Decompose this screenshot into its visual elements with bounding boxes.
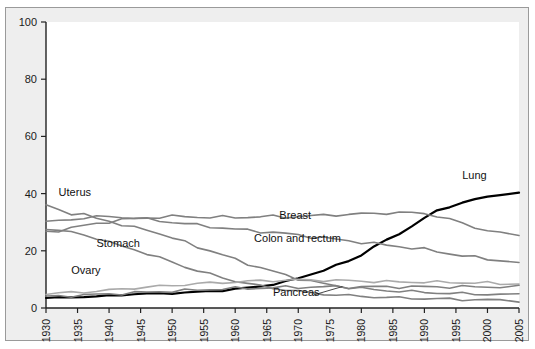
line-chart-canvas: 0204060801001930193519401945195019551960… — [0, 0, 535, 349]
x-tick-label-1935: 1935 — [72, 319, 84, 343]
y-tick-label-20: 20 — [25, 245, 37, 257]
series-label-ovary: Ovary — [71, 264, 101, 276]
series-label-colon-and-rectum: Colon and rectum — [254, 232, 341, 244]
y-tick-label-0: 0 — [31, 302, 37, 314]
series-label-lung: Lung — [462, 169, 486, 181]
series-label-uterus: Uterus — [59, 186, 92, 198]
series-label-pancreas: Pancreas — [273, 286, 320, 298]
x-tick-label-1995: 1995 — [450, 319, 462, 343]
x-tick-label-1985: 1985 — [387, 319, 399, 343]
x-tick-label-1980: 1980 — [355, 319, 367, 343]
y-tick-label-60: 60 — [25, 130, 37, 142]
plot-background — [46, 22, 519, 308]
x-tick-label-1965: 1965 — [261, 319, 273, 343]
x-tick-label-2000: 2000 — [481, 319, 493, 343]
series-label-breast: Breast — [279, 209, 311, 221]
x-tick-label-1975: 1975 — [324, 319, 336, 343]
x-tick-label-1930: 1930 — [40, 319, 52, 343]
y-tick-label-80: 80 — [25, 73, 37, 85]
x-tick-label-1950: 1950 — [166, 319, 178, 343]
chart-figure: Rate per 100,000 02040608010019301935194… — [0, 0, 535, 349]
x-tick-label-1990: 1990 — [418, 319, 430, 343]
x-tick-label-1970: 1970 — [292, 319, 304, 343]
x-tick-label-1955: 1955 — [198, 319, 210, 343]
x-tick-label-2005: 2005 — [513, 319, 525, 343]
series-label-stomach: Stomach — [96, 237, 139, 249]
x-tick-label-1960: 1960 — [229, 319, 241, 343]
x-tick-label-1940: 1940 — [103, 319, 115, 343]
y-tick-label-40: 40 — [25, 188, 37, 200]
x-tick-label-1945: 1945 — [135, 319, 147, 343]
y-tick-label-100: 100 — [19, 16, 37, 28]
